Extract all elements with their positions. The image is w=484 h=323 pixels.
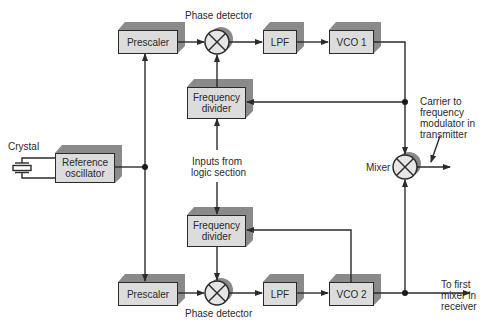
crystal-icon (13, 163, 31, 173)
carrier-label-2: frequency (420, 107, 464, 118)
frequency-divider-bottom-label-1: Frequency (193, 220, 240, 231)
reference-oscillator-label-1: Reference (62, 157, 108, 168)
phase-detector-bottom-label: Phase detector (185, 308, 252, 319)
receiver-label-1: To first (441, 279, 470, 290)
frequency-divider-bottom-block: Frequency divider (187, 215, 246, 247)
vco1-label: VCO 1 (336, 37, 366, 48)
prescaler-top-block: Prescaler (118, 30, 178, 54)
lpf-top-label: LPF (271, 37, 289, 48)
frequency-divider-top-label-2: divider (202, 103, 231, 114)
lpf-bottom-label: LPF (271, 289, 289, 300)
phase-detector-top-label: Phase detector (185, 10, 252, 21)
frequency-divider-top-block: Frequency divider (187, 87, 246, 119)
inputs-label-1: Inputs from (192, 156, 242, 167)
inputs-label-2: logic section (191, 167, 246, 178)
carrier-label-3: modulator in (420, 118, 475, 129)
carrier-label-1: Carrier to (420, 96, 462, 107)
lpf-top-block: LPF (263, 30, 297, 54)
receiver-label-3: receiver (441, 301, 477, 312)
phase-detector-bottom-icon (205, 281, 229, 305)
reference-oscillator-block: Reference oscillator (55, 153, 115, 183)
vco2-label: VCO 2 (336, 289, 366, 300)
frequency-divider-bottom-label-2: divider (202, 231, 231, 242)
crystal-label: Crystal (8, 141, 39, 152)
phase-detector-top-icon (205, 30, 229, 54)
mixer-icon (393, 155, 417, 179)
prescaler-bottom-block: Prescaler (118, 282, 178, 306)
lpf-bottom-block: LPF (263, 282, 297, 306)
frequency-divider-top-label-1: Frequency (193, 92, 240, 103)
reference-oscillator-label-2: oscillator (65, 168, 104, 179)
junction-dots (142, 99, 408, 296)
vco2-block: VCO 2 (329, 282, 374, 306)
prescaler-top-label: Prescaler (127, 37, 169, 48)
carrier-label-4: transmitter (420, 129, 467, 140)
vco1-block: VCO 1 (329, 30, 374, 54)
mixer-label: Mixer (366, 162, 390, 173)
prescaler-bottom-label: Prescaler (127, 289, 169, 300)
receiver-label-2: mixer in (441, 290, 476, 301)
